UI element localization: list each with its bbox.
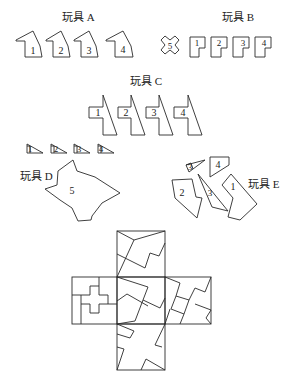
svg-text:3: 3 [87, 45, 92, 56]
toy-c-small-piece-2: 2 [51, 144, 67, 154]
cube-face-left [72, 277, 117, 324]
toy-c-small-piece-1: 1 [27, 144, 43, 154]
svg-text:4: 4 [262, 38, 267, 48]
toy-puzzle-diagram: 玩具 A 1 2 3 4 玩具 B 5 1 2 [0, 0, 294, 386]
svg-text:1: 1 [31, 45, 36, 56]
svg-text:2: 2 [54, 144, 59, 154]
toy-b-label: 玩具 B [222, 11, 254, 23]
toy-e-pieces: 3 4 2 3 1 [172, 157, 257, 220]
toy-b-piece-5: 5 [161, 36, 179, 54]
toy-e-piece-4: 4 [210, 157, 229, 177]
toy-c-piece-3: 3 [146, 95, 173, 135]
toy-c-piece-2: 2 [118, 95, 145, 135]
svg-text:3: 3 [77, 144, 82, 154]
svg-text:4: 4 [121, 44, 126, 55]
cube-face-right [165, 277, 211, 324]
toy-a-piece-3: 3 [74, 31, 98, 57]
toy-d-label: 玩具 D [20, 170, 53, 182]
toy-b-piece-2: 2 [211, 37, 227, 57]
svg-text:3: 3 [241, 38, 246, 48]
svg-text:3: 3 [188, 162, 193, 172]
toy-b-pieces: 5 1 2 3 4 [161, 36, 271, 57]
toy-a-piece-1: 1 [16, 31, 42, 57]
toy-b-piece-1: 1 [190, 37, 205, 57]
cube-face-center [117, 277, 165, 324]
toy-e-piece-3-small: 3 [186, 160, 205, 172]
toy-c-piece-1: 1 [89, 95, 117, 135]
svg-text:3: 3 [152, 107, 157, 118]
toy-e-piece-2: 2 [172, 179, 202, 218]
toy-c-small-piece-4: 4 [98, 144, 114, 154]
toy-c-piece-4: 4 [174, 95, 202, 135]
svg-text:2: 2 [124, 107, 129, 118]
toy-a-label: 玩具 A [62, 11, 95, 23]
toy-b-piece-3: 3 [233, 37, 249, 57]
svg-text:2: 2 [59, 45, 64, 56]
toy-a-piece-4: 4 [106, 31, 133, 57]
cube-net [72, 231, 211, 370]
toy-c-pieces: 1 2 3 4 1 2 3 4 [27, 95, 202, 154]
toy-e-piece-3-large: 3 [198, 174, 228, 211]
svg-text:4: 4 [216, 159, 221, 170]
toy-b-piece-4: 4 [255, 37, 271, 57]
svg-text:2: 2 [217, 38, 222, 48]
svg-text:1: 1 [96, 107, 101, 118]
svg-text:1: 1 [231, 181, 236, 192]
svg-text:2: 2 [180, 187, 185, 198]
svg-text:5: 5 [168, 41, 173, 51]
toy-d-piece-5: 5 [45, 160, 120, 221]
svg-text:3: 3 [208, 188, 213, 198]
toy-a-piece-2: 2 [46, 31, 70, 57]
svg-text:5: 5 [70, 185, 75, 196]
svg-text:1: 1 [28, 144, 33, 154]
toy-c-small-piece-3: 3 [74, 144, 90, 154]
svg-text:4: 4 [181, 107, 186, 118]
svg-text:4: 4 [99, 144, 104, 154]
toy-e-label: 玩具 E [248, 178, 280, 190]
svg-text:1: 1 [195, 38, 200, 48]
toy-c-label: 玩具 C [130, 75, 162, 87]
toy-a-pieces: 1 2 3 4 [16, 31, 133, 57]
cube-face-bottom [117, 324, 165, 370]
